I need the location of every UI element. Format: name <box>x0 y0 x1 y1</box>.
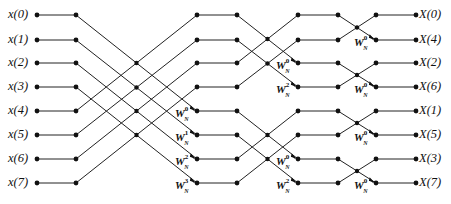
twiddle-factor-label: W0N <box>354 34 372 53</box>
node-dot <box>235 109 240 114</box>
twiddle-factor-label: W0N <box>276 57 294 76</box>
node-dot <box>195 109 200 114</box>
node-dot <box>195 38 200 43</box>
node-dot <box>74 157 79 162</box>
node-dot <box>374 133 379 138</box>
node-dot <box>336 13 341 18</box>
node-dot <box>235 133 240 138</box>
node-dot <box>35 109 40 114</box>
node-dot <box>374 85 379 90</box>
twiddle-factor-label: W2N <box>175 153 193 172</box>
output-label-X0: X(0) <box>419 7 441 21</box>
node-dot <box>414 133 419 138</box>
node-dot <box>235 157 240 162</box>
twiddle-factor-label: W0N <box>354 81 372 100</box>
node-dot <box>74 38 79 43</box>
node-dot <box>195 157 200 162</box>
input-label-x1: x(1) <box>8 32 28 46</box>
node-dot <box>296 133 301 138</box>
node-dot <box>336 181 341 186</box>
input-label-x7: x(7) <box>8 175 28 189</box>
node-dot <box>374 38 379 43</box>
output-label-X5: X(5) <box>419 127 441 141</box>
node-dot <box>195 13 200 18</box>
node-dot <box>374 61 379 66</box>
node-dot <box>195 85 200 90</box>
node-dot <box>134 85 138 89</box>
twiddle-factor-label: W1N <box>175 129 193 148</box>
node-dot <box>296 85 301 90</box>
node-dot <box>35 85 40 90</box>
input-label-x5: x(5) <box>8 127 28 141</box>
node-dot <box>134 109 138 113</box>
node-dot <box>336 85 341 90</box>
node-dot <box>35 38 40 43</box>
node-dot <box>235 61 240 66</box>
node-dot <box>35 13 40 18</box>
node-dot <box>414 38 419 43</box>
node-dot <box>134 133 138 137</box>
node-dot <box>336 133 341 138</box>
node-dot <box>374 13 379 18</box>
node-dot <box>336 109 341 114</box>
node-dot <box>74 109 79 114</box>
node-dot <box>265 37 269 41</box>
output-label-X7: X(7) <box>419 175 441 189</box>
node-dot <box>374 181 379 186</box>
twiddle-factor-label: W0N <box>276 153 294 172</box>
node-dot <box>35 181 40 186</box>
node-dot <box>296 157 301 162</box>
node-dot <box>235 38 240 43</box>
node-dot <box>265 61 269 65</box>
fft-butterfly-diagram <box>0 0 451 204</box>
output-label-X4: X(1) <box>419 103 441 117</box>
twiddle-factor-label: W2N <box>276 177 294 196</box>
output-label-X3: X(6) <box>419 79 441 93</box>
node-dot <box>414 13 419 18</box>
node-dot <box>35 157 40 162</box>
input-label-x2: x(2) <box>8 55 28 69</box>
node-dot <box>336 38 341 43</box>
node-dot <box>235 181 240 186</box>
twiddle-factor-label: W0N <box>354 177 372 196</box>
node-dot <box>414 85 419 90</box>
node-dot <box>74 13 79 18</box>
twiddle-factor-label: W2N <box>276 81 294 100</box>
node-dot <box>74 61 79 66</box>
output-label-X1: X(4) <box>419 32 441 46</box>
node-dot <box>74 181 79 186</box>
node-dot <box>355 169 359 173</box>
node-dot <box>235 85 240 90</box>
node-dot <box>414 181 419 186</box>
input-label-x4: x(4) <box>8 103 28 117</box>
node-dot <box>195 61 200 66</box>
node-dot <box>374 157 379 162</box>
twiddle-factor-label: W0N <box>175 105 193 124</box>
node-dot <box>296 61 301 66</box>
input-label-x0: x(0) <box>8 7 28 21</box>
input-label-x6: x(6) <box>8 151 28 165</box>
node-dot <box>296 109 301 114</box>
node-dot <box>296 38 301 43</box>
node-dot <box>35 61 40 66</box>
node-dot <box>74 133 79 138</box>
node-dot <box>355 73 359 77</box>
node-dot <box>195 133 200 138</box>
node-dot <box>265 157 269 161</box>
node-dot <box>414 61 419 66</box>
twiddle-factor-label: W3N <box>175 177 193 196</box>
node-dot <box>235 13 240 18</box>
node-dot <box>296 13 301 18</box>
node-dot <box>414 157 419 162</box>
output-label-X2: X(2) <box>419 55 441 69</box>
node-dot <box>296 181 301 186</box>
node-dot <box>134 61 138 65</box>
node-dot <box>265 133 269 137</box>
node-dot <box>374 109 379 114</box>
twiddle-factor-label: W0N <box>354 129 372 148</box>
node-dot <box>195 181 200 186</box>
node-dot <box>74 85 79 90</box>
node-dot <box>355 25 359 29</box>
input-label-x3: x(3) <box>8 79 28 93</box>
node-dot <box>35 133 40 138</box>
